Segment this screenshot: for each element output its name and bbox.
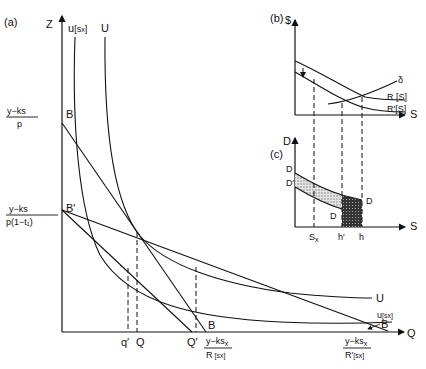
u-sx-curve-label: u[sx] [68,22,87,34]
panel-a-tag: (a) [4,16,17,28]
b-y-axis-label: $ [285,14,291,26]
c-x-axis-label: S [410,220,417,232]
tick-Q-prime: Q′ [187,336,198,348]
z-axis-label: Z [46,18,53,30]
panel-c: (c) D S D D′ D D Sx h′ h [270,135,417,243]
svg-text:y−ksx: y−ksx [345,336,368,347]
tick-q-prime: q′ [121,336,129,348]
U-curve-label-right: U [376,292,384,304]
svg-text:y−ks: y−ks [7,106,26,116]
svg-text:R [sx]: R [sx] [206,350,225,360]
R-S-label: R [S] [387,92,407,102]
x-intercept-R-prime: y−ksx R′[sx] [343,336,371,360]
panel-b-tag: (b) [270,12,283,24]
point-B-label: B [66,108,73,120]
point-B-bottom-label: B [208,319,215,331]
c-y-axis-label: D [283,135,291,147]
budget-line-B-prime-steep [62,210,192,332]
b-x-axis-label: S [410,108,417,120]
svg-text:y−ksx: y−ksx [206,336,229,347]
point-B-prime-label: B′ [66,202,75,214]
D-label-right: D [366,196,373,206]
u-sx-indifference-curve [74,37,392,323]
diagram-canvas: (a) Z Q u[sx] U y−ks p B y−ks p(1−t₁) [0,0,426,369]
D-label-bottom: D [330,211,337,221]
B-line-label-right: B [381,318,388,330]
y-intercept-B-prime: y−ks p(1−t₁) [6,204,58,227]
x-intercept-R: y−ksx R [sx] [204,336,232,360]
q-axis-label: Q [407,327,416,339]
panel-b: (b) $ S δ R [S] R′[S] [270,12,417,120]
panel-c-tag: (c) [270,148,283,160]
svg-text:y−ks: y−ks [9,204,28,214]
tick-Sx: Sx [309,232,319,243]
tick-Q: Q [136,336,145,348]
D-prime-label: D′ [286,178,294,188]
U-curve-label-top: U [101,22,109,34]
budget-line-B [62,123,206,332]
R-prime-S-label: R′[S] [387,104,406,114]
svg-text:p: p [17,119,22,129]
tick-h: h [359,232,364,242]
D-label-left: D [286,164,293,174]
svg-text:R′[sx]: R′[sx] [345,350,364,360]
panel-a: (a) Z Q u[sx] U y−ks p B y−ks p(1−t₁) [4,16,416,360]
svg-text:p(1−t₁): p(1−t₁) [6,217,33,227]
U-indifference-curve [105,37,372,298]
tick-h-prime: h′ [338,232,345,242]
y-intercept-B: y−ks p [6,106,38,129]
delta-label: δ [398,75,403,85]
